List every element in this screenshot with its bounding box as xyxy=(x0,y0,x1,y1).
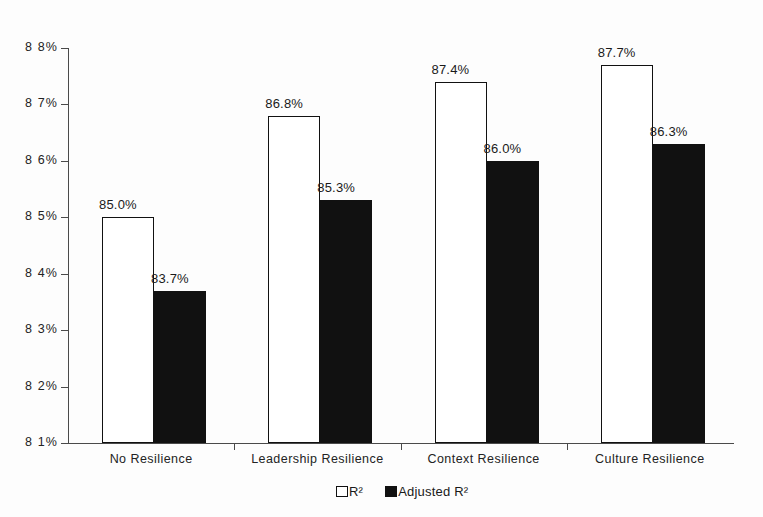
bar xyxy=(601,65,653,443)
bar-value-label: 87.7% xyxy=(598,45,636,60)
bar-value-label: 85.3% xyxy=(317,180,355,195)
x-axis-category-label: Culture Resilience xyxy=(567,452,733,466)
legend-label: Adjusted R² xyxy=(398,484,468,499)
chart-legend: R²Adjusted R² xyxy=(336,484,468,499)
y-axis-tick-label: 8 3% xyxy=(0,322,58,336)
bar-value-label: 87.4% xyxy=(432,62,470,77)
bar xyxy=(653,144,705,443)
bar xyxy=(435,82,487,443)
bar-value-label: 83.7% xyxy=(151,271,189,286)
x-axis-category-label: Context Resilience xyxy=(401,452,567,466)
bar-value-label: 86.8% xyxy=(265,96,303,111)
y-axis-tick xyxy=(61,330,68,331)
legend-swatch-dark-icon xyxy=(385,486,397,497)
legend-item: R² xyxy=(336,484,363,499)
y-axis-tick-label: 8 7% xyxy=(0,96,58,110)
x-axis-tick xyxy=(234,443,235,450)
x-axis-tick xyxy=(567,443,568,450)
y-axis-tick-label: 8 6% xyxy=(0,153,58,167)
x-axis-tick xyxy=(401,443,402,450)
legend-swatch-light-icon xyxy=(336,486,348,497)
y-axis-tick xyxy=(61,387,68,388)
y-axis-tick-label: 8 1% xyxy=(0,435,58,449)
y-axis-tick xyxy=(61,48,68,49)
y-axis-tick-label: 8 8% xyxy=(0,40,58,54)
legend-item: Adjusted R² xyxy=(385,484,468,499)
y-axis-tick xyxy=(61,274,68,275)
y-axis-tick xyxy=(61,104,68,105)
bar xyxy=(268,116,320,443)
y-axis-tick xyxy=(61,217,68,218)
bar xyxy=(320,200,372,443)
bar xyxy=(154,291,206,443)
bar xyxy=(102,217,154,443)
bar-chart: 8 1%8 2%8 3%8 4%8 5%8 6%8 7%8 8% 85.0%83… xyxy=(0,0,763,517)
y-axis-tick-label: 8 5% xyxy=(0,209,58,223)
y-axis-tick-label: 8 4% xyxy=(0,266,58,280)
bar-value-label: 86.0% xyxy=(484,141,522,156)
legend-label: R² xyxy=(349,484,363,499)
bar-value-label: 85.0% xyxy=(99,197,137,212)
y-axis-tick xyxy=(61,161,68,162)
bar-value-label: 86.3% xyxy=(650,124,688,139)
plot-area: 85.0%83.7%86.8%85.3%87.4%86.0%87.7%86.3% xyxy=(68,48,733,443)
x-axis-category-label: Leadership Resilience xyxy=(234,452,400,466)
y-axis-tick xyxy=(61,443,68,444)
y-axis-tick-label: 8 2% xyxy=(0,379,58,393)
bar xyxy=(487,161,539,443)
x-axis-category-label: No Resilience xyxy=(68,452,234,466)
